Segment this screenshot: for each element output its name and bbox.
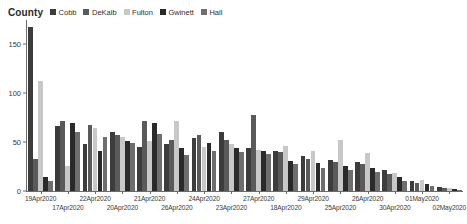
bar-group bbox=[382, 20, 407, 191]
x-axis-tick-label: 30Apr2020 bbox=[379, 204, 410, 211]
legend-swatch-hall bbox=[201, 9, 207, 15]
legend-item-dekalb[interactable]: DeKalb bbox=[83, 8, 116, 17]
x-axis-tick-label: 26Apr2020 bbox=[352, 195, 383, 202]
bar[interactable] bbox=[48, 181, 53, 191]
bar[interactable] bbox=[375, 172, 380, 191]
bar-group bbox=[219, 20, 244, 191]
x-axis-tick-mark bbox=[150, 192, 151, 194]
bar-group bbox=[273, 20, 298, 191]
legend-swatch-fulton bbox=[124, 9, 130, 15]
bar-group bbox=[355, 20, 380, 191]
legend-label-gwinett: Gwinett bbox=[168, 8, 193, 17]
x-axis-tick-label: 24Apr2020 bbox=[188, 195, 219, 202]
x-axis-tick-label: 19Apr2020 bbox=[25, 195, 56, 202]
bar[interactable] bbox=[457, 190, 462, 191]
legend-item-gwinett[interactable]: Gwinett bbox=[160, 8, 194, 17]
x-axis-tick-mark bbox=[340, 192, 341, 194]
y-axis: 050100150 bbox=[0, 20, 26, 192]
bar-group bbox=[437, 20, 462, 191]
legend-label-fulton: Fulton bbox=[132, 8, 153, 17]
bar[interactable] bbox=[402, 181, 407, 191]
x-axis-tick-mark bbox=[122, 192, 123, 194]
bar[interactable] bbox=[321, 168, 326, 191]
legend-label-cobb: Cobb bbox=[59, 8, 77, 17]
bar[interactable] bbox=[184, 155, 189, 191]
x-axis-tick-mark bbox=[177, 192, 178, 194]
x-axis-tick-label: 23Apr2020 bbox=[216, 204, 247, 211]
bar-group bbox=[55, 20, 80, 191]
bar[interactable] bbox=[239, 152, 244, 191]
legend-item-cobb[interactable]: Cobb bbox=[50, 8, 76, 17]
x-axis-tick-label: 25Apr2020 bbox=[325, 204, 356, 211]
y-axis-tick-label: 50 bbox=[13, 138, 21, 147]
y-axis-tick-label: 150 bbox=[8, 40, 21, 49]
x-axis-tick-mark bbox=[204, 192, 205, 194]
bar-group bbox=[83, 20, 108, 191]
legend-swatch-gwinett bbox=[160, 9, 166, 15]
x-axis-tick-mark bbox=[313, 192, 314, 194]
bar[interactable] bbox=[266, 154, 271, 191]
bar[interactable] bbox=[103, 137, 108, 191]
bar-group bbox=[110, 20, 135, 191]
bar[interactable] bbox=[38, 81, 43, 191]
x-axis-tick-mark bbox=[95, 192, 96, 194]
x-axis-tick-mark bbox=[395, 192, 396, 194]
x-axis-labels: 19Apr202017Apr202022Apr202020Apr202021Ap… bbox=[0, 192, 467, 224]
x-axis-tick-mark bbox=[231, 192, 232, 194]
x-axis-tick-label: 02May2020 bbox=[433, 204, 467, 211]
bar-group bbox=[301, 20, 326, 191]
bar[interactable] bbox=[75, 132, 80, 191]
x-axis-tick-mark bbox=[422, 192, 423, 194]
y-axis-tick-label: 100 bbox=[8, 89, 21, 98]
x-axis-tick-label: 21Apr2020 bbox=[134, 195, 165, 202]
x-axis-tick-label: 27Apr2020 bbox=[243, 195, 274, 202]
legend-title: County bbox=[8, 7, 43, 18]
chart-legend: County Cobb DeKalb Fulton Gwinett Hall bbox=[8, 4, 229, 20]
bar-group bbox=[28, 20, 53, 191]
bar-group bbox=[137, 20, 162, 191]
x-axis-tick-label: 29Apr2020 bbox=[297, 195, 328, 202]
x-axis-tick-label: 17Apr2020 bbox=[52, 204, 83, 211]
x-axis-tick-label: 18Apr2020 bbox=[270, 204, 301, 211]
bar[interactable] bbox=[293, 164, 298, 191]
x-axis-tick-mark bbox=[286, 192, 287, 194]
legend-swatch-dekalb bbox=[83, 9, 89, 15]
x-axis-tick-label: 01May2020 bbox=[405, 195, 439, 202]
bar-group bbox=[246, 20, 271, 191]
bar-group bbox=[410, 20, 435, 191]
plot-area: 050100150 19Apr202017Apr202022Apr202020A… bbox=[0, 20, 467, 224]
legend-swatch-cobb bbox=[50, 9, 56, 15]
bar-group bbox=[192, 20, 217, 191]
x-axis-tick-mark bbox=[41, 192, 42, 194]
x-axis-tick-label: 20Apr2020 bbox=[107, 204, 138, 211]
bar-chart: County Cobb DeKalb Fulton Gwinett Hall 0… bbox=[0, 0, 467, 224]
bar[interactable] bbox=[348, 170, 353, 191]
x-axis-tick-mark bbox=[368, 192, 369, 194]
bar[interactable] bbox=[130, 143, 135, 191]
x-axis-tick-label: 26Apr2020 bbox=[161, 204, 192, 211]
bar-group bbox=[328, 20, 353, 191]
legend-item-hall[interactable]: Hall bbox=[201, 8, 222, 17]
bar[interactable] bbox=[157, 134, 162, 191]
legend-label-hall: Hall bbox=[209, 8, 222, 17]
x-axis-tick-mark bbox=[449, 192, 450, 194]
bar-series-container bbox=[27, 20, 463, 191]
x-axis-tick-mark bbox=[68, 192, 69, 194]
bar[interactable] bbox=[430, 186, 435, 191]
legend-label-dekalb: DeKalb bbox=[92, 8, 117, 17]
bar-group bbox=[164, 20, 189, 191]
x-axis-tick-mark bbox=[259, 192, 260, 194]
x-axis-tick-label: 22Apr2020 bbox=[79, 195, 110, 202]
bar[interactable] bbox=[212, 151, 217, 191]
legend-item-fulton[interactable]: Fulton bbox=[124, 8, 153, 17]
